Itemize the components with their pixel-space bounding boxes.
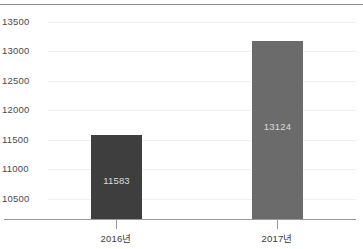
y-axis-tick-label: 11500 bbox=[2, 135, 46, 145]
gridline bbox=[48, 110, 356, 111]
x-axis-category-label-2017: 2017년 bbox=[261, 231, 292, 245]
x-axis-category-label-2016: 2016년 bbox=[100, 231, 131, 245]
bar-chart: 13500 13000 12500 12000 11500 11000 1050… bbox=[0, 0, 363, 249]
y-axis-tick-label: 10500 bbox=[2, 194, 46, 204]
bar-value-label: 13124 bbox=[252, 121, 303, 132]
y-axis-tick-label: 13500 bbox=[2, 17, 46, 27]
gridline bbox=[48, 51, 356, 52]
y-axis: 13500 13000 12500 12000 11500 11000 1050… bbox=[2, 14, 46, 219]
y-axis-tick-label: 11000 bbox=[2, 164, 46, 174]
y-axis-tick-label: 12000 bbox=[2, 105, 46, 115]
x-axis-tick-mark bbox=[277, 220, 278, 229]
y-axis-tick-label: 12500 bbox=[2, 76, 46, 86]
gridline bbox=[48, 22, 356, 23]
plot-area: 11583 13124 bbox=[48, 14, 356, 219]
y-axis-tick-label: 13000 bbox=[2, 46, 46, 56]
bar-value-label: 11583 bbox=[91, 175, 142, 186]
x-axis-baseline bbox=[4, 219, 356, 220]
top-rule-divider bbox=[0, 4, 363, 5]
x-axis-tick-mark bbox=[116, 220, 117, 229]
bar-2017[interactable]: 13124 bbox=[252, 41, 303, 219]
bar-2016[interactable]: 11583 bbox=[91, 135, 142, 219]
gridline bbox=[48, 81, 356, 82]
